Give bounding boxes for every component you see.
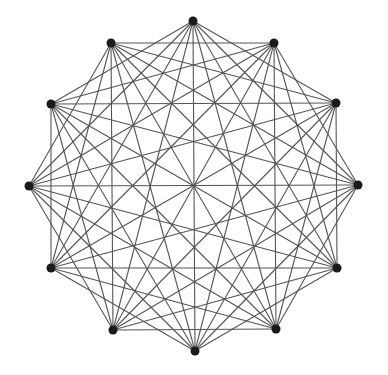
graph-diagram — [0, 0, 388, 375]
edges — [29, 21, 358, 351]
graph-edge — [29, 186, 113, 330]
graph-node — [25, 182, 34, 191]
graph-node — [47, 100, 56, 109]
graph-node — [191, 347, 200, 356]
graph-edge — [193, 21, 276, 329]
graph-edge — [113, 329, 276, 330]
graph-node — [270, 39, 279, 48]
graph-edge — [274, 43, 276, 329]
graph-edge — [111, 43, 358, 185]
graph-edge — [29, 43, 274, 186]
graph-edge — [29, 186, 276, 329]
graph-node — [354, 181, 363, 190]
graph-edge — [193, 21, 336, 103]
graph-edge — [29, 43, 111, 186]
graph-edge — [51, 268, 195, 351]
graph-edge — [51, 43, 274, 268]
graph-edge — [111, 43, 337, 268]
graph-edge — [51, 104, 195, 351]
graph-node — [333, 264, 342, 273]
graph-edge — [51, 185, 358, 268]
graph-edge — [113, 185, 358, 330]
graph-edge — [111, 43, 195, 351]
graph-edge — [111, 43, 113, 330]
graph-node — [107, 39, 116, 48]
graph-node — [332, 99, 341, 108]
graph-edge — [51, 103, 336, 104]
graph-edge — [195, 268, 337, 351]
graph-node — [47, 264, 56, 273]
graph-node — [109, 326, 118, 335]
graph-node — [272, 325, 281, 334]
graph-node — [189, 17, 198, 26]
